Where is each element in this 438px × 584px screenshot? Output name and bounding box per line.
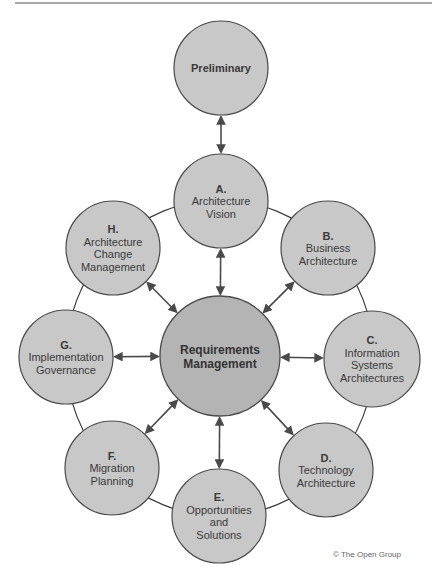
phase-label-line: Architecture [299, 255, 358, 267]
phase-label-line: Architecture [84, 236, 143, 248]
node-preliminary: Preliminary [174, 21, 268, 115]
phase-label-line: Business [306, 242, 351, 254]
phase-label-line: Opportunities [186, 504, 252, 516]
phase-label-line: Vision [206, 208, 236, 220]
arrow-center-to-c [282, 357, 322, 358]
phase-label-line: Architectures [340, 372, 405, 384]
node-phase-g: G.ImplementationGovernance [19, 310, 113, 404]
arrow-center-to-b [264, 283, 294, 313]
phase-label-line: Systems [351, 359, 394, 371]
adm-cycle-diagram: PreliminaryA.ArchitectureVisionB.Busines… [0, 0, 438, 584]
phase-label-line: Architecture [297, 477, 356, 489]
center-label-line2: Management [183, 357, 256, 371]
arrow-center-to-d [262, 401, 292, 434]
node-phase-a: A.ArchitectureVision [174, 154, 268, 248]
phase-letter: C. [367, 334, 378, 346]
phase-label-line: Solutions [196, 529, 242, 541]
phase-letter: B. [323, 230, 334, 242]
phase-label-line: Migration [89, 462, 134, 474]
center-label-line1: Requirements [180, 343, 260, 357]
phase-label-line: Architecture [192, 195, 251, 207]
phase-label-line: Management [81, 261, 145, 273]
phase-letter: F. [108, 450, 117, 462]
arrow-center-to-h [147, 283, 176, 312]
phase-label-line: Information [344, 347, 399, 359]
phase-letter: G. [60, 339, 72, 351]
phase-label-line: Planning [91, 475, 134, 487]
node-phase-d: D.TechnologyArchitecture [279, 423, 373, 517]
node-phase-c: C.InformationSystemsArchitectures [324, 311, 420, 407]
phase-letter: A. [216, 183, 227, 195]
node-requirements-management: RequirementsManagement [160, 296, 280, 416]
phase-letter: E. [214, 491, 224, 503]
phase-label-line: Change [94, 248, 133, 260]
phase-label-line: Technology [298, 464, 354, 476]
node-phase-b: B.BusinessArchitecture [281, 201, 375, 295]
preliminary-label: Preliminary [191, 62, 252, 74]
phase-label-line: and [210, 516, 228, 528]
node-phase-e: E.OpportunitiesandSolutions [172, 469, 266, 563]
phase-letter: D. [321, 452, 332, 464]
node-phase-f: F.MigrationPlanning [65, 421, 159, 515]
phase-label-line: Implementation [28, 351, 103, 363]
copyright-notice: © The Open Group [333, 550, 402, 559]
arrow-center-to-f [146, 401, 177, 433]
phase-label-line: Governance [36, 364, 96, 376]
node-phase-h: H.ArchitectureChangeManagement [66, 201, 160, 295]
phase-letter: H. [108, 223, 119, 235]
